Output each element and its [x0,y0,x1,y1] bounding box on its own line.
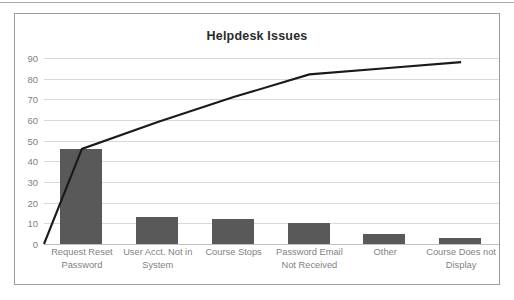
chart-container: Helpdesk Issues 90 80 70 60 50 40 30 20 … [14,13,500,285]
x-label-password-email-not-received: Password Email Not Received [271,246,347,286]
x-label-course-stops: Course Stops [196,246,272,286]
chart-title: Helpdesk Issues [15,29,499,43]
x-label-line2: Password [62,260,103,270]
x-label-line1: Password Email [276,247,343,257]
cumulative-line-layer [44,58,499,244]
x-axis-labels: Request Reset Password User Acct. Not in… [44,246,499,286]
gridline-0-baseline [44,244,499,245]
x-label-line2: Display [446,260,476,270]
x-label-course-does-not-display: Course Does not Display [423,246,499,286]
x-label-line1: User Acct. Not in [123,247,192,257]
x-label-line1: Course Stops [205,247,261,257]
y-tick-label-80: 80 [27,73,38,84]
page-top-rule [0,2,514,3]
y-tick-label-70: 70 [27,94,38,105]
plot-area: 90 80 70 60 50 40 30 20 10 0 [44,58,499,244]
y-tick-label-50: 50 [27,135,38,146]
x-label-line2: Not Received [281,260,337,270]
y-tick-label-90: 90 [27,53,38,64]
y-tick-label-20: 20 [27,197,38,208]
x-label-user-acct-not-in-system: User Acct. Not in System [120,246,196,286]
y-tick-label-10: 10 [27,218,38,229]
x-label-request-reset-password: Request Reset Password [44,246,120,286]
y-tick-label-40: 40 [27,156,38,167]
y-tick-label-30: 30 [27,177,38,188]
x-label-line1: Course Does not [426,247,496,257]
x-label-other: Other [347,246,423,286]
y-tick-label-60: 60 [27,115,38,126]
x-label-line1: Request Reset [51,247,113,257]
cumulative-line-svg [44,58,499,244]
y-tick-label-0: 0 [33,239,38,250]
cumulative-line-path [44,62,461,244]
x-label-line2: System [142,260,173,270]
x-label-line1: Other [374,247,397,257]
